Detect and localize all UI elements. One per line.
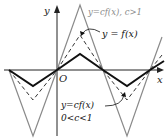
label-f: y = f(x): [101, 28, 138, 39]
label-cf-small-eq: y=cf(x): [60, 100, 95, 110]
curve-cf-small: [9, 35, 162, 100]
y-axis-arrow-icon: [54, 5, 60, 13]
vertical-stretch-diagram: y x O y=cf(x), c>1 y = f(x) y=cf(x) 0<c<…: [0, 0, 166, 140]
label-cf-small-cond: 0<c<1: [61, 113, 93, 123]
x-axis-arrow-icon: [157, 67, 164, 73]
label-cf-large: y=cf(x), c>1: [87, 7, 142, 17]
y-axis-label: y: [43, 5, 50, 16]
x-axis-label: x: [157, 74, 163, 85]
origin-label: O: [59, 73, 67, 84]
f-label-pointer: [82, 29, 100, 34]
